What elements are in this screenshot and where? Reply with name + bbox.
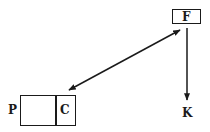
diagram-canvas: F P C K [0, 0, 210, 132]
edges-layer [0, 0, 210, 132]
arrow-f-to-c-bidirectional [69, 30, 180, 90]
